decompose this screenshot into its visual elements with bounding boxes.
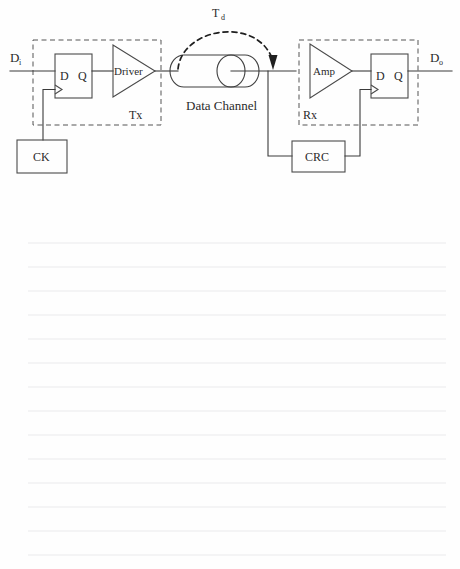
rx-group-label: Rx [303,108,317,122]
data-channel-label: Data Channel [186,98,258,113]
page-canvas: D Q Driver Tx CK Data Channel T d Amp [0,0,460,569]
input-signal-label: D [10,50,19,65]
amplifier-label: Amp [313,65,336,77]
input-signal-subscript: i [19,58,22,67]
ruled-note-lines [0,230,460,569]
output-signal-subscript: o [439,58,443,67]
tx-ff-q-label: Q [78,69,87,83]
rx-ff-d-label: D [376,69,385,83]
tx-flipflop-clock-notch [55,85,62,94]
rx-ff-q-label: Q [394,69,403,83]
clock-wire [43,90,55,141]
block-diagram: D Q Driver Tx CK Data Channel T d Amp [0,0,460,230]
driver-label: Driver [114,65,143,77]
crc-output-wire [345,90,371,157]
crc-label: CRC [305,150,329,164]
rx-flipflop-clock-notch [371,85,378,94]
clock-source-label: CK [33,150,50,164]
crc-input-wire [268,71,292,156]
tx-ff-d-label: D [60,69,69,83]
output-signal-label: D [430,50,439,65]
delay-label-subscript: d [221,13,225,22]
propagation-delay-arrowhead [269,55,278,70]
delay-label: T [212,6,220,20]
tx-group-label: Tx [129,108,142,122]
